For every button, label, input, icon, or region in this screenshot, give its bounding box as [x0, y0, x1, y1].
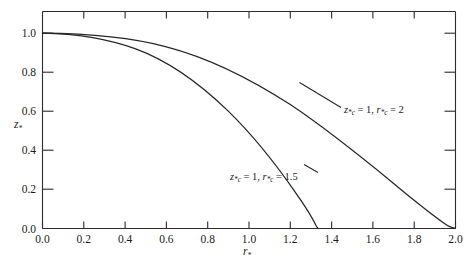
xtick-label: 1.4 [324, 233, 339, 245]
xtick-label: 0.8 [201, 233, 216, 245]
yaxis-ticks [43, 33, 54, 189]
annotation-lower-eq2: = 1.5 [273, 171, 297, 182]
leader-line-lower [304, 165, 318, 173]
ytick-label: 0.6 [22, 105, 37, 117]
xtick-label: 1.6 [366, 233, 381, 245]
annotation-lower-eq1: = 1, [241, 171, 263, 182]
ytick-label: 0.4 [22, 144, 37, 156]
chart-plot-area: 0.0 0.2 0.4 0.6 0.8 1.0 1.2 1.4 1.6 1.8 … [0, 0, 464, 263]
curve-rc-2 [43, 33, 456, 228]
xtick-label: 0.0 [35, 233, 50, 245]
yaxis-tick-labels: 0.0 0.2 0.4 0.6 0.8 1.0 [22, 27, 37, 234]
annotation-upper-eq2: = 2 [387, 104, 403, 115]
yaxis-title: z* [13, 118, 22, 133]
xtick-label: 2.0 [448, 233, 463, 245]
xaxis-tick-labels: 0.0 0.2 0.4 0.6 0.8 1.0 1.2 1.4 1.6 1.8 … [35, 233, 463, 245]
annotation-upper: z*c = 1, r*c = 2 [343, 104, 404, 117]
curve-rc-1-5 [43, 33, 319, 228]
xtick-label: 1.2 [283, 233, 298, 245]
annotation-upper-eq1: = 1, [355, 104, 377, 115]
xaxis-ticks [43, 222, 456, 229]
yaxis-title-subscript: * [18, 125, 22, 133]
xtick-label: 0.6 [159, 233, 174, 245]
xtick-label: 0.2 [77, 233, 92, 245]
yaxis-right-ticks [445, 33, 456, 189]
xaxis-top-ticks [84, 12, 414, 19]
xaxis-title-subscript: * [247, 252, 251, 260]
ytick-label: 0.0 [22, 223, 37, 235]
xtick-label: 1.8 [407, 233, 422, 245]
ytick-label: 1.0 [22, 27, 37, 39]
xaxis-title: r* [243, 245, 251, 260]
axis-frame [43, 12, 456, 229]
annotation-lower: z*c = 1, r*c = 1.5 [229, 171, 298, 184]
leader-line-upper [300, 83, 342, 108]
xtick-label: 0.4 [118, 233, 133, 245]
ytick-label: 0.2 [22, 183, 37, 195]
xtick-label: 1.0 [242, 233, 257, 245]
ytick-label: 0.8 [22, 66, 37, 78]
chart-figure: 0.0 0.2 0.4 0.6 0.8 1.0 1.2 1.4 1.6 1.8 … [0, 0, 464, 263]
